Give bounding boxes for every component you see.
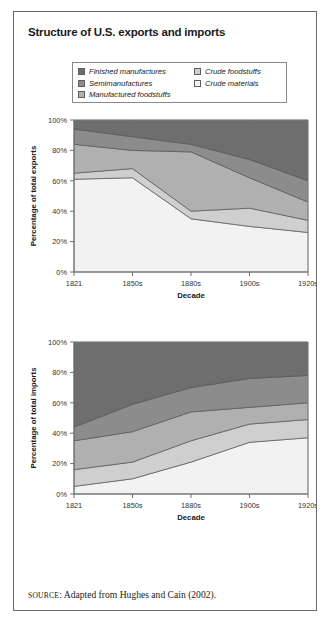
x-axis-tick-label: 1880s [181, 279, 201, 288]
legend-item-label: Finished manufactures [89, 67, 166, 76]
y-axis-tick-label: 100% [48, 116, 67, 125]
x-axis-tick-label: 1900s [239, 501, 259, 510]
y-axis-tick-label: 20% [52, 237, 67, 246]
y-axis-tick-label: 40% [52, 207, 67, 216]
y-axis-title: Percentage of total imports [29, 367, 38, 469]
legend-item: Finished manufactures [78, 66, 170, 78]
source-prefix: SOURCE [28, 591, 59, 600]
legend-item: Crude foodstuffs [194, 66, 261, 78]
legend-column-left: Finished manufactures Semimanufactures M… [78, 66, 170, 101]
legend-swatch-icon [78, 68, 85, 75]
y-axis-tick-label: 40% [52, 429, 67, 438]
x-axis-tick-label: 1850s [122, 501, 142, 510]
legend-item: Manufactured foodstuffs [78, 89, 170, 101]
y-axis-tick-label: 80% [52, 368, 67, 377]
chart-imports-svg: 0%20%40%60%80%100%18211850s1880s1900s192… [14, 330, 316, 542]
x-axis-tick-label: 1900s [239, 279, 259, 288]
x-axis-tick-label: 1821 [66, 501, 82, 510]
y-axis-tick-label: 60% [52, 399, 67, 408]
source-note: SOURCE: Adapted from Hughes and Cain (20… [28, 589, 216, 600]
y-axis-tick-label: 0% [56, 268, 67, 277]
legend-item-label: Crude materials [205, 79, 259, 88]
x-axis-title: Decade [177, 513, 205, 522]
source-text: : Adapted from Hughes and Cain (2002). [59, 589, 216, 600]
x-axis-tick-label: 1850s [122, 279, 142, 288]
x-axis-tick-label: 1920s [298, 279, 316, 288]
figure-title: Structure of U.S. exports and imports [28, 26, 225, 38]
legend-item-label: Crude foodstuffs [205, 67, 261, 76]
legend-item: Crude materials [194, 78, 261, 90]
legend-swatch-icon [194, 68, 201, 75]
legend-item-label: Semimanufactures [89, 79, 152, 88]
legend-item: Semimanufactures [78, 78, 170, 90]
x-axis-title: Decade [177, 291, 205, 300]
y-axis-title: Percentage of total exports [29, 145, 38, 246]
legend-swatch-icon [78, 91, 85, 98]
y-axis-tick-label: 0% [56, 490, 67, 499]
x-axis-tick-label: 1821 [66, 279, 82, 288]
y-axis-tick-label: 100% [48, 338, 67, 347]
chart-exports: 0%20%40%60%80%100%18211850s1880s1900s192… [14, 108, 316, 320]
legend-swatch-icon [78, 80, 85, 87]
x-axis-tick-label: 1880s [181, 501, 201, 510]
chart-legend: Finished manufactures Semimanufactures M… [72, 62, 287, 103]
chart-imports: 0%20%40%60%80%100%18211850s1880s1900s192… [14, 330, 316, 542]
legend-column-right: Crude foodstuffs Crude materials [194, 66, 261, 89]
x-axis-tick-label: 1920s [298, 501, 316, 510]
y-axis-tick-label: 20% [52, 459, 67, 468]
chart-exports-svg: 0%20%40%60%80%100%18211850s1880s1900s192… [14, 108, 316, 320]
y-axis-tick-label: 60% [52, 177, 67, 186]
figure-container: Structure of U.S. exports and imports Fi… [13, 11, 317, 611]
legend-item-label: Manufactured foodstuffs [89, 90, 170, 99]
y-axis-tick-label: 80% [52, 146, 67, 155]
legend-swatch-icon [194, 80, 201, 87]
